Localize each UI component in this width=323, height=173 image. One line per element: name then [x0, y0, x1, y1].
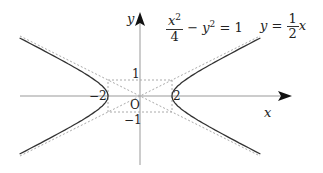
tick-y-pos: 1	[132, 68, 140, 80]
tick-y-neg: −1	[124, 114, 142, 126]
asymptote-label: y = 12x	[260, 12, 306, 42]
origin-label: O	[130, 99, 140, 111]
y-axis-label: y	[127, 12, 134, 25]
tick-x-pos: 2	[173, 90, 181, 102]
x-axis-label: x	[264, 106, 271, 119]
tick-x-neg: −2	[89, 90, 107, 102]
hyperbola-equation: x24 − y2 = 1	[166, 13, 243, 44]
